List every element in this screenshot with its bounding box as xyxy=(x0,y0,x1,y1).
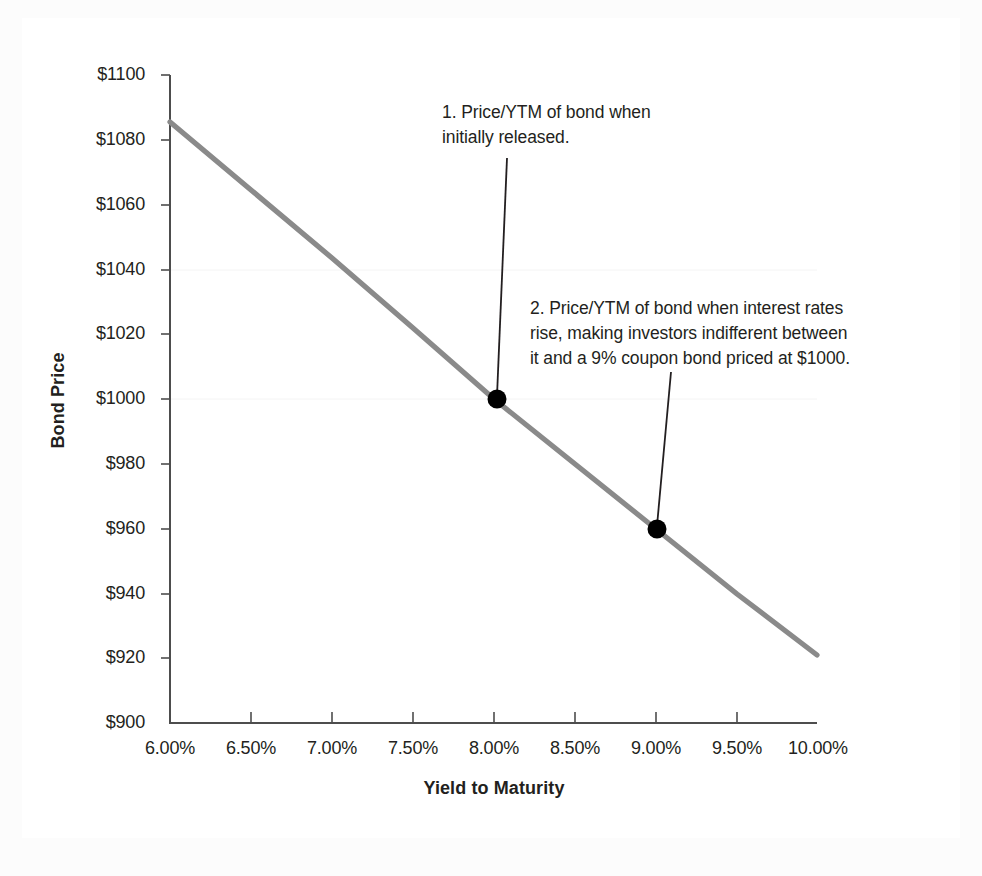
x-axis-ticks xyxy=(251,712,737,723)
y-axis-title: Bond Price xyxy=(48,331,69,471)
data-point-marker-2 xyxy=(648,520,667,539)
y-tick-label-1020: $1020 xyxy=(55,323,145,344)
y-tick-label-1060: $1060 xyxy=(55,194,145,215)
leader-line-2 xyxy=(657,372,671,526)
data-point-marker-1 xyxy=(488,390,507,409)
bond-price-ytm-chart: $1100 $1080 $1060 $1040 $1020 $1000 $980… xyxy=(0,0,982,876)
annotation-callout-1: 1. Price/YTM of bond when initially rele… xyxy=(442,100,742,150)
y-tick-label-1000: $1000 xyxy=(55,388,145,409)
y-tick-label-960: $960 xyxy=(55,518,145,539)
y-tick-label-920: $920 xyxy=(55,647,145,668)
bond-price-line xyxy=(170,122,817,655)
y-axis-ticks xyxy=(161,75,170,658)
leader-line-1 xyxy=(497,158,507,396)
y-tick-label-1040: $1040 xyxy=(55,259,145,280)
x-tick-label-1000: 10.00% xyxy=(763,738,873,759)
y-tick-label-1100: $1100 xyxy=(55,64,145,85)
y-tick-label-980: $980 xyxy=(55,453,145,474)
y-tick-label-900: $900 xyxy=(55,712,145,733)
y-tick-label-940: $940 xyxy=(55,583,145,604)
y-tick-label-1080: $1080 xyxy=(55,129,145,150)
annotation-callout-2: 2. Price/YTM of bond when interest rates… xyxy=(530,296,950,371)
x-axis-title: Yield to Maturity xyxy=(170,778,818,799)
